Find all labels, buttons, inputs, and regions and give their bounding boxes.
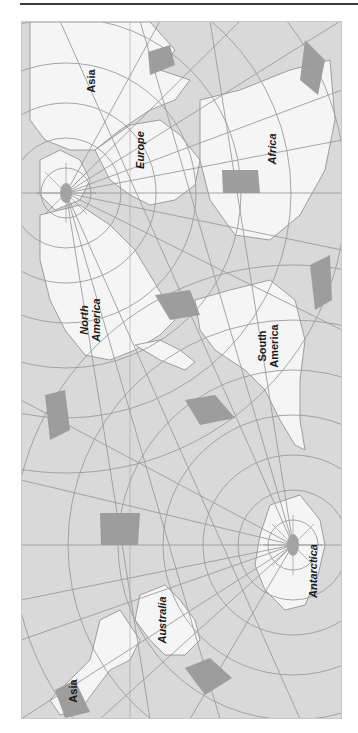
world-map [21, 21, 342, 719]
label-north-america: North America [78, 290, 102, 350]
label-asia-top: Asia [85, 66, 97, 96]
top-rule [20, 3, 358, 5]
label-south-america-line2: America [268, 316, 280, 376]
north-pole-marker [60, 183, 72, 203]
label-australia: Australia [156, 590, 168, 650]
label-africa: Africa [266, 129, 278, 169]
map-canvas [21, 21, 342, 719]
label-asia-bottom: Asia [67, 676, 79, 706]
label-north-america-line1: North [78, 290, 90, 350]
label-south-america-line1: South [256, 316, 268, 376]
south-pole-marker [287, 534, 299, 556]
label-south-america: South America [256, 316, 280, 376]
label-europe: Europe [134, 128, 146, 172]
label-north-america-line2: America [90, 290, 102, 350]
label-antarctica: Antarctica [307, 536, 319, 606]
